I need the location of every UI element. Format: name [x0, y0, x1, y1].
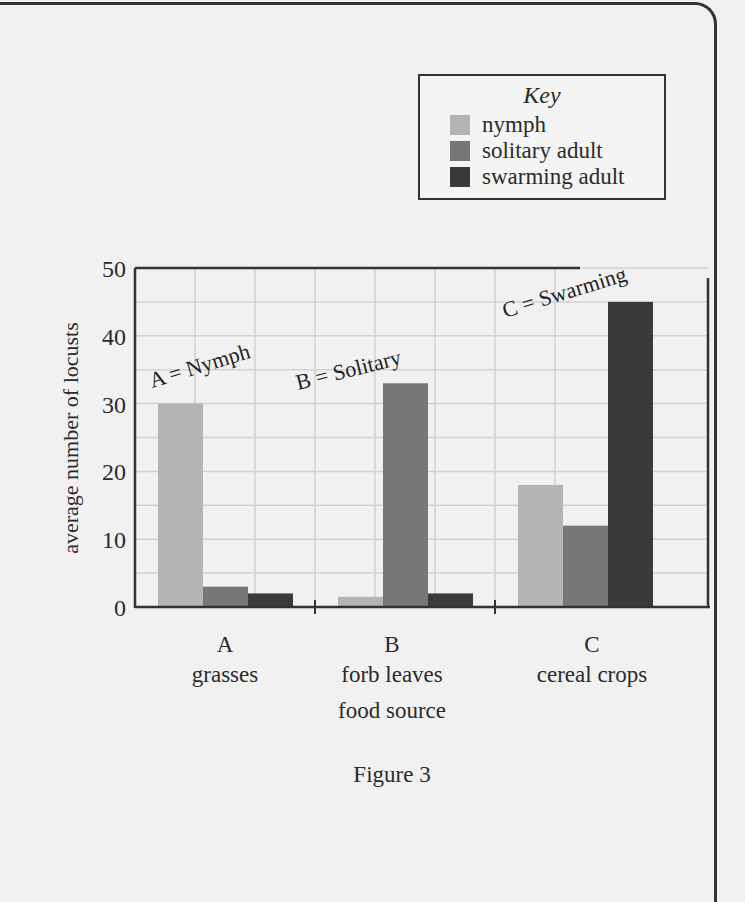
y-tick-label: 50	[102, 256, 126, 282]
handwritten-annotations: A = Nymph B = Solitary C = Swarming	[146, 261, 629, 395]
y-tick-label: 20	[102, 459, 126, 485]
category-letter: A	[217, 632, 234, 657]
bar-nymph	[158, 404, 203, 607]
y-tick-label: 0	[114, 595, 126, 621]
bar-swarming-adult	[248, 593, 293, 607]
bar-swarming-adult	[428, 593, 473, 607]
category-name: forb leaves	[341, 662, 443, 687]
figure-caption: Figure 3	[353, 762, 430, 787]
category-name: cereal crops	[537, 662, 648, 687]
y-tick-label: 40	[102, 324, 126, 350]
bar-nymph	[518, 485, 563, 607]
y-tick-labels: 0 10 20 30 40 50	[102, 256, 126, 621]
bar-solitary-adult	[383, 383, 428, 607]
bar-solitary-adult	[203, 587, 248, 607]
y-tick-label: 30	[102, 392, 126, 418]
bar-swarming-adult	[608, 302, 653, 607]
category-name: grasses	[192, 662, 258, 687]
category-letter: C	[584, 632, 599, 657]
y-axis-label: average number of locusts	[58, 322, 83, 554]
bar-solitary-adult	[563, 526, 608, 607]
category-letter: B	[384, 632, 399, 657]
x-axis-label: food source	[338, 698, 446, 723]
x-tick-labels: A grasses B forb leaves C cereal crops f…	[192, 632, 647, 787]
bar-nymph	[338, 597, 383, 607]
annotation-a: A = Nymph	[146, 338, 253, 392]
y-tick-label: 10	[102, 527, 126, 553]
